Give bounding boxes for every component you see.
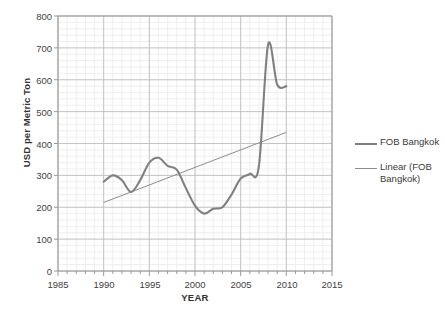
legend-label: Linear (FOB Bangkok) [380,161,443,185]
legend-swatch-icon [355,164,377,173]
chart-container: USD per Metric Ton 800 700 600 500 400 3… [0,0,445,316]
legend-item-linear-fob-bangkok: Linear (FOB Bangkok) [355,161,443,185]
chart-legend: FOB Bangkok Linear (FOB Bangkok) [355,136,443,198]
legend-item-fob-bangkok: FOB Bangkok [355,136,443,148]
legend-swatch-icon [355,139,377,148]
axis-ticks [54,16,332,276]
legend-label: FOB Bangkok [380,136,439,148]
